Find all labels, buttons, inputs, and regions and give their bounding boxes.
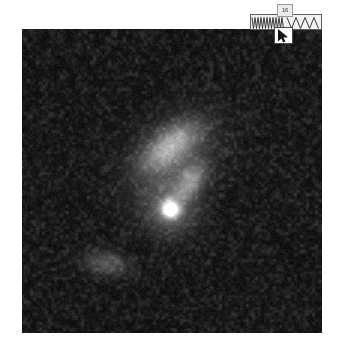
mouse-cursor xyxy=(274,27,293,44)
sky-image-canvas[interactable] xyxy=(22,29,322,333)
arrow-pointer-icon xyxy=(277,29,291,43)
value-tooltip: 16 xyxy=(277,4,293,17)
sky-image-frame[interactable] xyxy=(22,29,322,333)
viewer-stage: 16 xyxy=(0,0,343,359)
